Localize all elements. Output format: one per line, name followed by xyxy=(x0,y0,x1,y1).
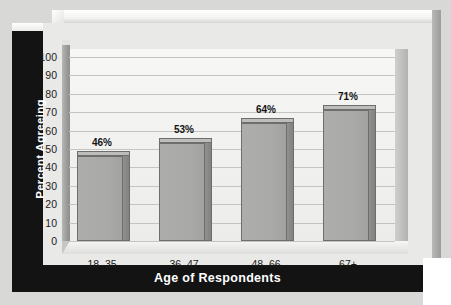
y-axis-tick-label: 80 xyxy=(23,88,57,100)
y-axis-tick-label: 100 xyxy=(23,51,57,63)
bar[interactable] xyxy=(159,143,205,241)
x-axis-title: Age of Respondents xyxy=(12,271,423,285)
bar[interactable] xyxy=(77,156,123,241)
bar[interactable] xyxy=(323,110,369,241)
bar[interactable] xyxy=(241,123,287,241)
y-axis-pillar-cap xyxy=(62,40,70,45)
frame-right-bevel xyxy=(432,10,441,272)
y-axis-tick-label: 40 xyxy=(23,161,57,173)
category-label: 67+ xyxy=(339,258,357,270)
frame-top-left-notch xyxy=(52,10,64,24)
y-axis-tick-label: 20 xyxy=(23,198,57,210)
y-axis-tick-label: 90 xyxy=(23,69,57,81)
gridline xyxy=(69,241,395,242)
chart-screenshot: Percent Agreeing Age of Respondents 0102… xyxy=(0,0,451,305)
y-axis-tick-label: 70 xyxy=(23,106,57,118)
bar-value-label: 46% xyxy=(92,137,112,148)
bar-value-label: 64% xyxy=(256,104,276,115)
category-label: 48–66 xyxy=(251,258,280,270)
plot-floor-edge xyxy=(62,241,70,254)
bar-side-face xyxy=(369,105,376,241)
bar-value-label: 53% xyxy=(174,124,194,135)
bar-side-face xyxy=(123,151,130,241)
y-axis-tick-label: 0 xyxy=(23,235,57,247)
x-axis-band-corner-mask xyxy=(423,258,451,305)
category-label: 18–35 xyxy=(87,258,116,270)
plot-area: 0102030405060708090100 46%53%64%71% 18–3… xyxy=(43,31,423,265)
category-label: 36–47 xyxy=(169,258,198,270)
gridline xyxy=(69,75,395,76)
plot-right-wall xyxy=(395,49,408,254)
bar-side-face xyxy=(205,138,212,241)
plot-floor xyxy=(62,241,408,254)
y-axis-pillar xyxy=(62,44,70,241)
bar-side-face xyxy=(287,118,294,241)
y-axis-tick-label: 10 xyxy=(23,217,57,229)
bar-value-label: 71% xyxy=(338,91,358,102)
gridline xyxy=(69,57,395,58)
y-axis-tick-label: 60 xyxy=(23,125,57,137)
y-axis-tick-label: 50 xyxy=(23,143,57,155)
y-axis-tick-label: 30 xyxy=(23,180,57,192)
